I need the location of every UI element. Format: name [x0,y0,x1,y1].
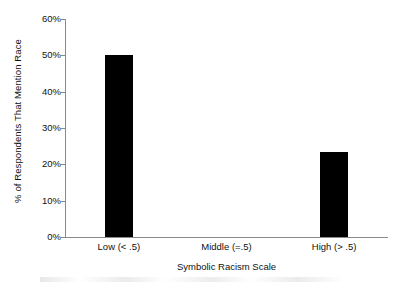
y-tick-mark [61,164,65,165]
x-axis-line [65,237,388,238]
bar [105,55,133,237]
bar-chart-figure: % of Respondents That Mention Race 0%10%… [0,0,396,284]
x-axis-tick-labels: Low (< .5)Middle (=.5)High (> .5) [65,241,388,257]
y-tick-label: 30% [17,123,61,133]
y-tick-label: 50% [17,50,61,60]
y-tick-mark [61,92,65,93]
plot-area [65,19,388,237]
x-tick-label: Middle (=.5) [201,241,251,252]
y-tick-mark [61,19,65,20]
y-axis-tick-labels: 0%10%20%30%40%50%60% [17,0,61,284]
y-tick-mark [61,201,65,202]
x-tick-label: Low (< .5) [98,241,141,252]
y-tick-mark [61,55,65,56]
x-tick-label: High (> .5) [312,241,357,252]
x-axis-title: Symbolic Racism Scale [65,261,388,272]
y-tick-label: 60% [17,14,61,24]
y-tick-label: 20% [17,159,61,169]
y-tick-label: 40% [17,87,61,97]
y-tick-mark [61,128,65,129]
y-tick-label: 0% [17,232,61,242]
y-axis-line [65,19,66,237]
scan-artifact [40,277,370,282]
bar [320,152,348,237]
y-tick-mark [61,237,65,238]
y-tick-label: 10% [17,196,61,206]
